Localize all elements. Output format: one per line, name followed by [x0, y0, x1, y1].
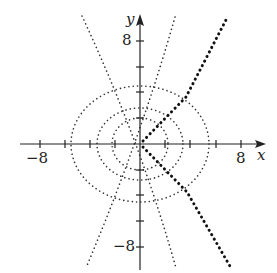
thin-dotted-lines — [82, 16, 176, 268]
coordinate-plot — [0, 0, 277, 273]
bold-dotted-curve — [143, 16, 231, 268]
x-tick-label-8: 8 — [236, 151, 246, 166]
y-tick-label-neg-8: −8 — [113, 239, 135, 254]
dotted-line-negative-slope — [82, 16, 176, 268]
x-axis-label: x — [257, 148, 265, 163]
y-axis-label: y — [126, 12, 134, 27]
x-tick-label-neg-8: −8 — [26, 151, 48, 166]
y-tick-label-8: 8 — [122, 33, 132, 48]
